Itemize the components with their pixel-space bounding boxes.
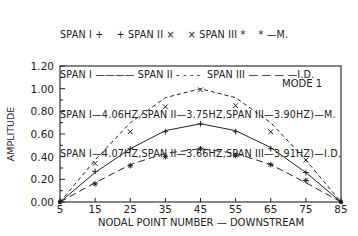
y-tick-label: 0.20 bbox=[31, 173, 54, 185]
marker-star bbox=[198, 146, 204, 152]
x-tick-label: 55 bbox=[229, 203, 242, 215]
curves bbox=[60, 89, 341, 202]
marker-star bbox=[268, 162, 274, 168]
x-tick-label: 25 bbox=[124, 203, 137, 215]
marker-cross bbox=[198, 87, 203, 92]
marker-star bbox=[233, 153, 239, 159]
mode-shape-chart: 0.000.200.400.600.801.001.20515253545556… bbox=[0, 0, 358, 236]
marker-cross bbox=[128, 129, 133, 134]
marker-star bbox=[303, 178, 309, 184]
x-tick-label: 75 bbox=[299, 203, 312, 215]
endpoint-dot bbox=[339, 200, 343, 204]
y-tick-label: 0.60 bbox=[31, 128, 54, 140]
marker-star bbox=[163, 154, 169, 160]
marker-cross bbox=[268, 129, 273, 134]
y-tick-label: 0.00 bbox=[31, 196, 54, 208]
x-tick-label: 35 bbox=[159, 203, 172, 215]
x-tick-label: 65 bbox=[264, 203, 277, 215]
marker-plus bbox=[92, 169, 98, 175]
y-tick-label: 1.20 bbox=[31, 60, 54, 72]
marker-cross bbox=[233, 103, 238, 108]
curve-solid bbox=[60, 124, 341, 202]
y-tick-label: 0.80 bbox=[31, 105, 54, 117]
y-axis-label: AMPLITUDE bbox=[5, 107, 16, 162]
y-tick-label: 1.00 bbox=[31, 83, 54, 95]
marker-star bbox=[92, 181, 98, 187]
y-tick-label: 0.40 bbox=[31, 151, 54, 163]
marker-plus bbox=[198, 121, 204, 127]
mode-annotation: MODE 1 bbox=[282, 78, 322, 89]
marker-star bbox=[127, 163, 133, 169]
markers bbox=[58, 87, 343, 204]
curve-long-dash bbox=[60, 149, 341, 202]
marker-cross bbox=[163, 104, 168, 109]
marker-cross bbox=[93, 161, 98, 166]
marker-cross bbox=[303, 158, 308, 163]
x-tick-label: 85 bbox=[334, 203, 347, 215]
x-tick-label: 15 bbox=[88, 203, 101, 215]
marker-plus bbox=[127, 146, 133, 152]
endpoint-dot bbox=[58, 200, 62, 204]
x-tick-label: 45 bbox=[194, 203, 207, 215]
x-tick-label: 5 bbox=[57, 203, 64, 215]
x-axis-label: NODAL POINT NUMBER — DOWNSTREAM bbox=[98, 217, 304, 228]
curve-short-dash bbox=[60, 89, 341, 202]
